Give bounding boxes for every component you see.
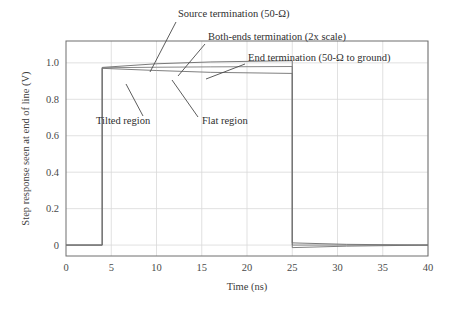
x-tick-label: 0 bbox=[63, 262, 68, 273]
annotation-label: End termination (50-Ω to ground) bbox=[248, 52, 391, 64]
annotation-label: Source termination (50-Ω) bbox=[178, 8, 290, 20]
y-tick-label: 1.0 bbox=[46, 57, 59, 68]
annotation-label: Flat region bbox=[202, 115, 249, 126]
x-tick-label: 40 bbox=[423, 262, 434, 273]
x-tick-label: 25 bbox=[287, 262, 298, 273]
x-axis-title: Time (ns) bbox=[227, 281, 268, 293]
y-tick-label: 0.2 bbox=[46, 203, 59, 214]
y-tick-label: 0.6 bbox=[46, 130, 59, 141]
chart-background bbox=[0, 0, 458, 310]
chart-figure: 0510152025303540 00.20.40.60.81.0 Source… bbox=[0, 0, 458, 310]
y-tick-label: 0 bbox=[54, 240, 59, 251]
annotation-label: Tilted region bbox=[96, 115, 151, 126]
annotation-label: Both-ends termination (2x scale) bbox=[208, 31, 346, 43]
x-tick-label: 15 bbox=[197, 262, 208, 273]
x-tick-label: 20 bbox=[242, 262, 253, 273]
y-tick-label: 0.8 bbox=[46, 94, 59, 105]
x-tick-label: 10 bbox=[151, 262, 162, 273]
x-tick-label: 5 bbox=[109, 262, 114, 273]
x-tick-label: 30 bbox=[332, 262, 343, 273]
y-tick-label: 0.4 bbox=[46, 167, 60, 178]
step-response-chart: 0510152025303540 00.20.40.60.81.0 Source… bbox=[0, 0, 458, 310]
y-axis-title: Step response seen at end of line (V) bbox=[20, 71, 32, 226]
x-tick-label: 35 bbox=[378, 262, 389, 273]
